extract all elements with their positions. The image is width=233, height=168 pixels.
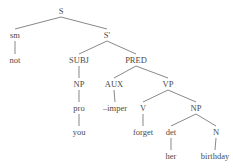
tree-edge-pred-aux: [114, 66, 136, 78]
tree-edge-np2-det: [171, 114, 196, 126]
tree-edge-n-birthday: [215, 138, 216, 150]
tree-node-det: det: [166, 127, 177, 137]
tree-node-np1: NP: [74, 79, 85, 89]
tree-node-s1: S': [104, 30, 111, 40]
tree-node-vp: VP: [163, 79, 174, 89]
tree-node-birthday: birthday: [201, 151, 230, 161]
tree-node-s: S: [59, 6, 64, 16]
tree-node-pred: PRED: [125, 55, 147, 65]
tree-edge-s-s1: [61, 17, 107, 29]
tree-node-subj: SUBJ: [69, 55, 90, 65]
tree-node-n: N: [213, 127, 219, 137]
tree-node-forget: forget: [133, 127, 154, 137]
tree-edge-vp-np2: [168, 90, 196, 102]
tree-node-not: not: [10, 55, 22, 65]
tree-node-you: you: [73, 127, 87, 137]
tree-node-sm: sm: [10, 30, 20, 40]
tree-edge-aux-imper: [114, 90, 115, 102]
tree-node-her: her: [166, 151, 177, 161]
tree-edge-pred-vp: [136, 66, 168, 78]
tree-node-aux: AUX: [105, 79, 123, 89]
tree-edge-s1-pred: [107, 41, 136, 54]
tree-node-v: V: [140, 103, 147, 113]
tree-node-imper: –imper: [102, 103, 127, 113]
tree-nodes: SsmnotS'SUBJNPproyouPREDAUX–imperVPVforg…: [10, 6, 230, 161]
syntax-tree-diagram: SsmnotS'SUBJNPproyouPREDAUX–imperVPVforg…: [0, 0, 233, 168]
tree-edge-s1-subj: [79, 41, 107, 54]
tree-edge-vp-v: [143, 90, 168, 102]
tree-node-np2: NP: [191, 103, 202, 113]
tree-edge-np2-n: [196, 114, 216, 126]
tree-node-pro: pro: [73, 103, 84, 113]
tree-edge-s-sm: [15, 17, 61, 29]
